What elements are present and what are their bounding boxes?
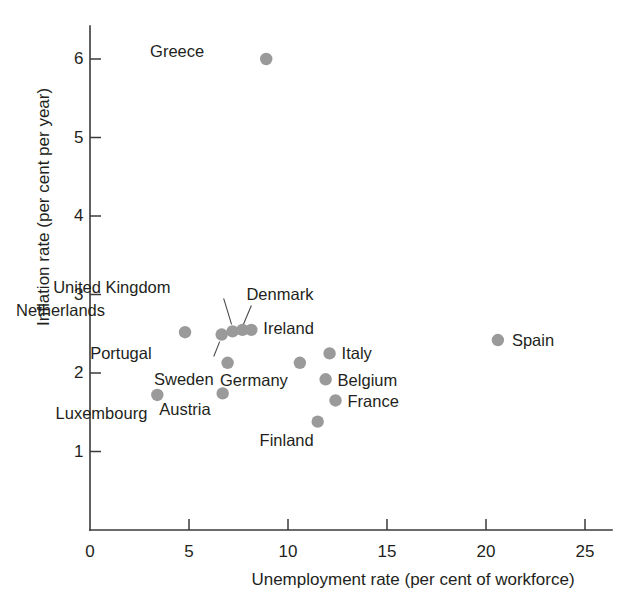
point-label-france: France [348,393,399,410]
data-point [216,387,228,399]
data-point [179,326,191,338]
point-label-sweden: Sweden [154,371,214,388]
point-label-united-kingdom: United Kingdom [53,279,170,296]
point-label-germany: Germany [220,372,288,389]
point-label-austria: Austria [159,401,210,418]
point-label-belgium: Belgium [338,372,398,389]
x-tick-label: 5 [184,542,193,562]
x-tick-label: 25 [576,542,595,562]
data-point [294,357,306,369]
scatter-chart: 1234560510152025GreeceNetherlandsPortuga… [0,0,641,602]
data-point [260,53,272,65]
data-point [312,415,324,427]
point-label-greece: Greece [150,43,204,60]
leader-line [214,342,220,357]
x-tick-label: 0 [85,542,94,562]
data-point [492,334,504,346]
point-label-italy: Italy [342,345,372,362]
y-axis-title: Inflation rate (per cent per year) [34,88,54,326]
point-label-luxembourg: Luxembourg [56,405,148,422]
data-point [245,324,257,336]
x-axis-title: Unemployment rate (per cent of workforce… [251,570,574,590]
data-point [215,328,227,340]
x-tick-label: 20 [477,542,496,562]
data-point [319,373,331,385]
data-point [221,357,233,369]
leader-line [224,298,232,324]
data-point [323,347,335,359]
data-point [329,394,341,406]
point-label-portugal: Portugal [90,344,151,361]
point-label-netherlands: Netherlands [16,302,105,319]
point-label-denmark: Denmark [246,286,313,303]
x-tick-label: 15 [378,542,397,562]
point-label-ireland: Ireland [263,320,313,337]
x-tick-label: 10 [279,542,298,562]
point-label-finland: Finland [260,431,314,448]
point-label-spain: Spain [512,332,554,349]
leader-line [243,305,251,324]
